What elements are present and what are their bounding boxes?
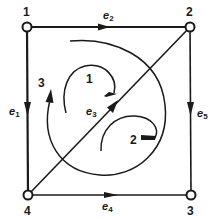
edge-label-e1: e1: [9, 105, 20, 119]
edge-label-sub: 2: [109, 14, 114, 23]
arrow-icon: [24, 102, 31, 116]
edge-label-e4: e4: [102, 200, 113, 214]
node-1: [23, 23, 32, 32]
edge-e4: [28, 192, 191, 198]
arrow-icon: [98, 24, 110, 31]
loop-label-2: 2: [130, 133, 137, 147]
arrow-icon: [141, 135, 156, 140]
node-2: [186, 23, 195, 32]
edge-e1: [24, 27, 31, 195]
node-3: [187, 191, 196, 200]
loop-3: [46, 40, 166, 175]
node-4: [24, 191, 33, 200]
loop-label-3: 3: [38, 76, 45, 90]
arrow-icon: [46, 89, 54, 103]
node-label-1: 1: [23, 5, 30, 19]
edge-label-e2: e2: [103, 9, 114, 23]
edge-label-e3: e3: [86, 105, 97, 119]
edge-label-sub: 4: [108, 205, 113, 214]
edge-label-e5: e5: [197, 107, 208, 121]
edge-label-sub: 5: [203, 112, 208, 121]
node-label-2: 2: [186, 5, 193, 19]
edge-label-sub: 1: [15, 110, 20, 119]
graph-diagram: 1 2 3 4 e2 e1 e5 e4 e3 1 2 3: [0, 0, 220, 221]
loop-label-1: 1: [86, 72, 93, 86]
edge-label-sub: 3: [92, 110, 97, 119]
arrow-icon: [104, 192, 118, 198]
node-label-4: 4: [24, 204, 31, 218]
edge-e5: [187, 27, 194, 195]
arrow-icon: [187, 102, 194, 116]
arrow-icon: [104, 92, 117, 97]
loop-2: [101, 116, 157, 151]
node-label-3: 3: [187, 204, 194, 218]
edge-e2: [27, 24, 190, 31]
